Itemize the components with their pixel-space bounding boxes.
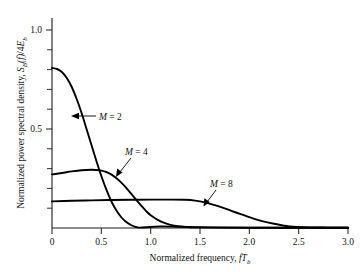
y-axis-title-f: (f)	[16, 54, 27, 63]
m2-label: M = 2	[98, 112, 122, 122]
x-tick-label-0.5: 0.5	[95, 237, 107, 247]
x-tick-label-1.5: 1.5	[194, 237, 206, 247]
y-axis-ticks	[46, 30, 52, 208]
y-tick-label-0.5: 0.5	[30, 124, 42, 134]
curve-m4	[52, 170, 348, 228]
axis-frame	[52, 18, 348, 228]
x-tick-label-1.0: 1.0	[145, 237, 157, 247]
m2-label-eq: = 2	[107, 112, 122, 122]
m4-label: M = 4	[124, 147, 148, 157]
x-axis-ticks	[52, 228, 348, 234]
x-tick-label-2.5: 2.5	[293, 237, 305, 247]
y-axis-title: Normalized power spectral density, SB(f)…	[16, 37, 29, 209]
x-tick-label-0: 0	[50, 237, 55, 247]
x-axis-title-sub: b	[247, 258, 251, 266]
y-tick-label-1.0: 1.0	[30, 25, 42, 35]
m8-label-eq: = 8	[218, 179, 233, 189]
x-axis-title: Normalized frequency, fTb	[150, 253, 251, 266]
m4-leader-line	[120, 158, 131, 172]
curve-m2	[52, 68, 348, 228]
x-tick-label-3.0: 3.0	[342, 237, 354, 247]
figure-container: 1.0 0.5 0 0.5 1.0 1.5 2.0 2.5 3.0 Normal…	[0, 0, 363, 272]
psd-chart: 1.0 0.5 0 0.5 1.0 1.5 2.0 2.5 3.0 Normal…	[0, 0, 363, 272]
m8-leader-line	[207, 190, 216, 202]
curve-m8	[52, 200, 348, 228]
m8-label: M = 8	[209, 179, 233, 189]
annotation-m8: M = 8	[204, 179, 234, 207]
curves-group	[52, 68, 348, 228]
m4-label-eq: = 4	[133, 147, 148, 157]
annotation-m4: M = 4	[116, 147, 148, 177]
x-axis-title-plain: Normalized frequency,	[150, 253, 239, 263]
m2-arrow-head	[71, 113, 79, 119]
y-axis-title-plain: Normalized power spectral density,	[16, 72, 26, 209]
annotation-m2: M = 2	[71, 112, 122, 122]
y-axis-title-E-sub: b	[21, 37, 29, 41]
x-tick-label-2.0: 2.0	[243, 237, 255, 247]
